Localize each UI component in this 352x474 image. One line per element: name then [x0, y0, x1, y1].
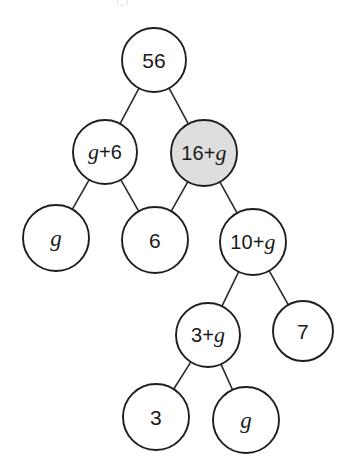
tree-edge-n6-n7 [222, 271, 240, 307]
expression-tree-diagram: 56g+616+gg610+g3+g73g [0, 0, 352, 474]
tree-node-n3-highlighted [171, 120, 237, 186]
tree-node-n9 [123, 384, 189, 450]
tree-edge-n2-n4 [72, 179, 90, 210]
tree-node-n8 [273, 301, 333, 361]
tree-edge-n7-n10 [221, 363, 233, 390]
tree-edge-n7-n9 [173, 361, 191, 390]
tree-canvas [0, 0, 352, 474]
tree-node-n10 [213, 387, 279, 453]
nodes-layer [23, 28, 333, 453]
tree-node-n1 [122, 28, 186, 92]
tree-node-n6 [220, 209, 286, 275]
tree-edge-n1-n3 [169, 87, 189, 125]
tree-node-n4 [23, 205, 89, 271]
tree-edge-n2-n5 [120, 179, 139, 212]
tree-edge-n1-n2 [120, 87, 140, 124]
tree-edge-n6-n8 [269, 270, 289, 306]
tree-edge-n3-n6 [219, 181, 237, 214]
tree-node-n7 [176, 303, 240, 367]
tree-node-n2 [73, 120, 137, 184]
tree-edge-n3-n5 [171, 181, 189, 212]
tree-node-n5 [122, 207, 188, 273]
